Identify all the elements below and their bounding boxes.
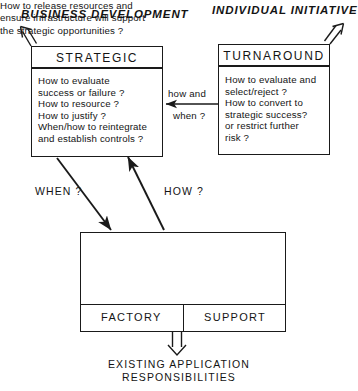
connector-label-when: WHEN ? [35, 185, 82, 197]
header-business-development: BUSINESS DEVELOPMENT [21, 8, 189, 20]
connector-label-when-question: when ? [173, 110, 205, 121]
bottom-cell-support: SUPPORT [204, 311, 266, 323]
strategic-questions: How to evaluate success or failure ? How… [38, 75, 147, 145]
header-individual-initiative: INDIVIDUAL INITIATIVE [212, 4, 358, 16]
strategic-box-header: STRATEGIC [31, 46, 163, 68]
turnaround-title: TURNAROUND [219, 49, 329, 63]
turnaround-box-header: TURNAROUND [218, 44, 330, 66]
bottom-box-divider-vertical [183, 304, 184, 332]
connector-label-how: HOW ? [164, 185, 204, 197]
open-arrow-existing-responsibilities [168, 332, 186, 355]
diagram-canvas: BUSINESS DEVELOPMENT INDIVIDUAL INITIATI… [0, 0, 358, 391]
arrow-how [128, 157, 164, 230]
turnaround-box-body: How to evaluate and select/reject ? How … [218, 66, 330, 155]
diagram-caption: EXISTING APPLICATION RESPONSIBILITIES [0, 358, 358, 384]
strategic-box-body: How to evaluate success or failure ? How… [31, 68, 163, 157]
turnaround-questions: How to evaluate and select/reject ? How … [225, 74, 316, 144]
connector-label-how-and: how and [168, 88, 206, 99]
strategic-title: STRATEGIC [32, 51, 162, 65]
bottom-cell-factory: FACTORY [101, 311, 162, 323]
